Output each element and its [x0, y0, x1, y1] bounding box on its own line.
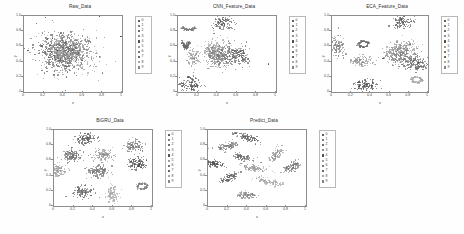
- scatter-point: [49, 62, 50, 63]
- scatter-point: [234, 172, 235, 173]
- legend-marker-icon: [168, 149, 170, 151]
- scatter-point: [48, 32, 49, 33]
- scatter-point: [59, 170, 60, 171]
- scatter-point: [213, 66, 214, 67]
- scatter-point: [225, 151, 226, 152]
- scatter-point: [355, 61, 356, 62]
- scatter-point: [244, 198, 245, 199]
- scatter-point: [69, 46, 70, 47]
- scatter-point: [414, 62, 415, 63]
- yaxis-tick-mark: [329, 91, 331, 92]
- scatter-point: [232, 180, 233, 181]
- scatter-point: [112, 185, 113, 186]
- scatter-point: [103, 47, 104, 48]
- scatter-point: [216, 64, 217, 65]
- scatter-point: [224, 57, 225, 58]
- scatter-point: [104, 158, 105, 159]
- scatter-point: [96, 150, 97, 151]
- scatter-point: [110, 152, 111, 153]
- legend-raw-data[interactable]: 0123456789: [135, 16, 152, 74]
- scatter-point: [242, 67, 243, 68]
- legend-cnn-feature-data[interactable]: 0123456789: [289, 16, 306, 74]
- scatter-point: [278, 156, 279, 157]
- scatter-point: [74, 33, 75, 34]
- xaxis-tick-label: 0.2: [348, 93, 353, 97]
- legend-bigru-data[interactable]: 0123456789: [165, 130, 182, 188]
- scatter-point: [238, 56, 239, 57]
- scatter-point: [74, 194, 75, 195]
- scatter-point: [52, 62, 53, 63]
- xaxis-label-bigru-data: x: [53, 215, 153, 219]
- scatter-point: [94, 46, 95, 47]
- scatter-point: [65, 71, 66, 72]
- legend-marker-icon: [322, 149, 324, 151]
- scatter-point: [235, 69, 236, 70]
- legend-eca-feature-data[interactable]: 0123456789: [441, 16, 458, 74]
- scatter-outlier-point: [36, 23, 37, 24]
- legend-item[interactable]: 9: [292, 65, 304, 70]
- scatter-point: [212, 46, 213, 47]
- legend-item-label: 2: [325, 143, 327, 147]
- scatter-point: [265, 177, 266, 178]
- scatter-point: [362, 82, 363, 83]
- scatter-point: [111, 156, 112, 157]
- scatter-point: [219, 27, 220, 28]
- scatter-point: [331, 51, 332, 52]
- legend-item-label: 8: [171, 175, 173, 179]
- yaxis-tick-mark: [51, 159, 53, 160]
- scatter-point: [74, 192, 75, 193]
- scatter-point: [222, 72, 223, 73]
- scatter-point: [386, 49, 387, 50]
- panel-raw-data: Raw_Data 00.20.40.60.8100.20.40.60.81.0 …: [4, 4, 156, 116]
- figure-canvas: Raw_Data 00.20.40.60.8100.20.40.60.81.0 …: [0, 0, 464, 234]
- scatter-point: [422, 63, 423, 64]
- scatter-point: [412, 49, 413, 50]
- legend-predict-data[interactable]: 0123456789: [319, 130, 336, 188]
- scatter-point: [223, 150, 224, 151]
- scatter-point: [79, 142, 80, 143]
- legend-item[interactable]: 9: [444, 65, 456, 70]
- scatter-point: [80, 132, 81, 133]
- scatter-point: [34, 36, 35, 37]
- scatter-point: [242, 195, 243, 196]
- scatter-point: [393, 18, 394, 19]
- scatter-point: [417, 48, 418, 49]
- scatter-point: [263, 168, 264, 169]
- scatter-point: [212, 147, 213, 148]
- scatter-point: [75, 142, 76, 143]
- scatter-point: [108, 170, 109, 171]
- scatter-point: [417, 62, 418, 63]
- legend-marker-icon: [168, 134, 170, 136]
- scatter-point: [134, 154, 135, 155]
- scatter-point: [212, 161, 213, 162]
- scatter-point: [194, 64, 195, 65]
- scatter-point: [108, 177, 109, 178]
- scatter-point: [223, 43, 224, 44]
- legend-item[interactable]: 9: [322, 179, 334, 184]
- scatter-point: [343, 57, 344, 58]
- legend-item[interactable]: 9: [138, 65, 150, 70]
- scatter-point: [103, 173, 104, 174]
- scatter-point: [88, 155, 89, 156]
- scatter-point: [57, 162, 58, 163]
- scatter-point: [414, 77, 415, 78]
- scatter-point: [145, 167, 146, 168]
- legend-item[interactable]: 9: [168, 179, 180, 184]
- scatter-point: [350, 59, 351, 60]
- scatter-point: [242, 137, 243, 138]
- legend-item-label: 6: [141, 50, 143, 54]
- scatter-point: [96, 155, 97, 156]
- scatter-point: [64, 171, 65, 172]
- scatter-point: [102, 171, 103, 172]
- scatter-point: [189, 88, 190, 89]
- scatter-point: [191, 90, 192, 91]
- scatter-point: [215, 46, 216, 47]
- scatter-point: [211, 41, 212, 42]
- scatter-point: [207, 64, 208, 65]
- scatter-point: [390, 42, 391, 43]
- legend-marker-icon: [168, 165, 170, 167]
- scatter-point: [105, 196, 106, 197]
- scatter-point: [76, 75, 77, 76]
- scatter-point: [217, 49, 218, 50]
- scatter-point: [224, 46, 225, 47]
